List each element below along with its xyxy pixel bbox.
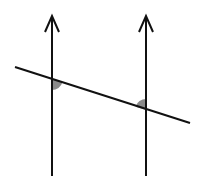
parallel-lines-transversal-diagram: [0, 0, 206, 179]
background: [0, 0, 206, 179]
